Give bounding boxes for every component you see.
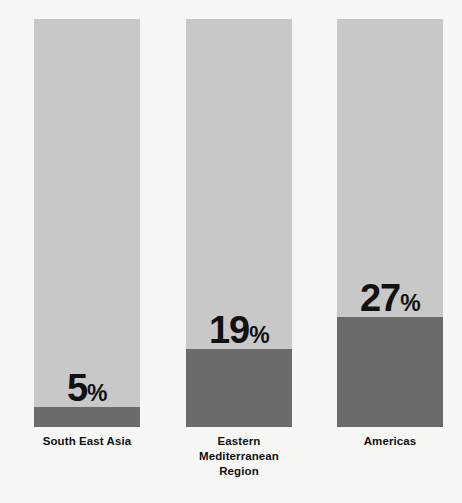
value-label-south-east-asia: 5%	[34, 369, 140, 407]
value-number-americas: 27	[360, 277, 400, 319]
percent-sign-americas: %	[400, 290, 420, 316]
stacked-bar-chart: 5% South East Asia 19% EasternMediterran…	[0, 0, 462, 503]
bar-group-eastern-mediterranean-region: 19% EasternMediterraneanRegion	[186, 0, 292, 503]
category-label-line: South East Asia	[16, 434, 158, 449]
bar-group-south-east-asia: 5% South East Asia	[34, 0, 140, 503]
percent-sign-eastern-mediterranean-region: %	[249, 322, 269, 348]
percent-sign-south-east-asia: %	[87, 380, 107, 406]
bar-fill-eastern-mediterranean-region	[186, 349, 292, 427]
value-number-south-east-asia: 5	[67, 367, 87, 409]
category-label-line: Eastern	[168, 434, 310, 449]
value-label-americas: 27%	[337, 279, 443, 317]
bar-americas[interactable]	[337, 19, 443, 427]
category-label-south-east-asia: South East Asia	[16, 434, 158, 449]
value-number-eastern-mediterranean-region: 19	[209, 309, 249, 351]
bar-fill-south-east-asia	[34, 407, 140, 427]
category-label-line: Americas	[319, 434, 461, 449]
bar-eastern-mediterranean-region[interactable]	[186, 19, 292, 427]
category-label-line: Mediterranean	[168, 449, 310, 464]
category-label-eastern-mediterranean-region: EasternMediterraneanRegion	[168, 434, 310, 479]
bar-fill-americas	[337, 317, 443, 427]
value-label-eastern-mediterranean-region: 19%	[186, 311, 292, 349]
category-label-americas: Americas	[319, 434, 461, 449]
bar-group-americas: 27% Americas	[337, 0, 443, 503]
category-label-line: Region	[168, 464, 310, 479]
